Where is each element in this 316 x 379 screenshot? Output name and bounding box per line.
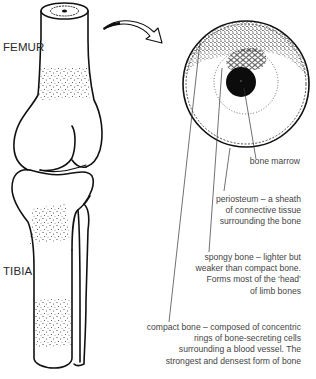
callout-spongy-bone: spongy bone – lighter but weaker than co… — [195, 252, 301, 297]
leader-periosteum — [224, 148, 230, 191]
callout-line: Forms most of the ‘head’ — [195, 274, 301, 285]
callout-periosteum: periosteum – a sheath of connective tiss… — [216, 194, 301, 228]
callout-line: spongy bone – lighter but — [195, 252, 301, 263]
cross-section — [182, 20, 310, 147]
callout-line: compact bone – composed of concentric — [147, 322, 301, 333]
femur-label: FEMUR — [3, 41, 44, 53]
callout-line: rings of bone-secreting cells — [147, 333, 301, 344]
callout-line: strongest and densest form of bone — [147, 356, 301, 367]
callout-compact-bone: compact bone – composed of concentric ri… — [147, 322, 301, 367]
callout-line: periosteum – a sheath — [216, 194, 301, 205]
femur-illustration — [14, 3, 102, 172]
callout-line: of connective tissue — [216, 205, 301, 216]
callout-line: bone marrow — [250, 156, 300, 167]
callout-line: surrounding the bone — [216, 216, 301, 227]
callout-line: surrounding a blood vessel. The — [147, 344, 301, 355]
tibia-label: TIBIA — [3, 265, 32, 277]
callout-bone-marrow: bone marrow — [250, 156, 300, 167]
curved-arrow-icon — [103, 21, 162, 43]
callout-line: weaker than compact bone. — [195, 263, 301, 274]
callout-line: of limb bones — [195, 286, 301, 297]
